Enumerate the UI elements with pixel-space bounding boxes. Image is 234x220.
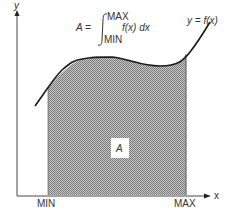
formula-upper-bound: MAX <box>107 11 129 22</box>
area-under-curve <box>48 54 186 195</box>
x-axis-arrow-icon <box>204 194 211 199</box>
formula-lower-bound: MIN <box>104 34 122 45</box>
x-tick-max: MAX <box>174 198 196 209</box>
formula-lhs: A = <box>75 22 91 33</box>
integral-diagram: A y x MIN MAX y = f(x) A = MAX MIN f(x) … <box>0 0 234 220</box>
y-axis-label: y <box>13 0 20 11</box>
formula-integrand: f(x) dx <box>122 22 151 33</box>
integral-formula: A = MAX MIN f(x) dx <box>75 11 151 45</box>
area-label: A <box>115 143 123 154</box>
x-axis-label: x <box>214 190 219 201</box>
curve-label: y = f(x) <box>186 15 218 26</box>
x-tick-min: MIN <box>37 198 55 209</box>
